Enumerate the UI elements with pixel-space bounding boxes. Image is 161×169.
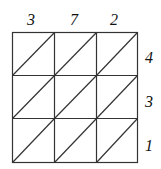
cell-diagonal	[55, 76, 97, 119]
top-digit-2: 7	[66, 12, 82, 28]
cell-diagonal	[97, 33, 138, 76]
top-digit-3: 2	[106, 12, 122, 28]
right-digit-3: 1	[141, 138, 157, 154]
cell-diagonal	[13, 33, 55, 76]
cell-diagonal	[97, 119, 138, 163]
cell-diagonal	[97, 76, 138, 119]
cell-diagonal	[55, 33, 97, 76]
cell-diagonal	[13, 119, 55, 163]
right-digit-1: 4	[141, 50, 157, 66]
right-digit-2: 3	[141, 94, 157, 110]
cell-diagonal	[55, 119, 97, 163]
cell-diagonal	[13, 76, 55, 119]
top-digit-1: 3	[23, 12, 39, 28]
